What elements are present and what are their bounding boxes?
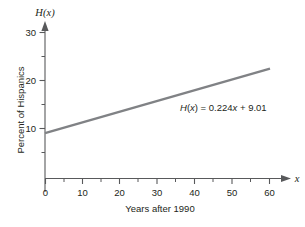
x-tick-label-50: 50: [227, 187, 238, 198]
equation-equals-slope: = 0.224: [198, 102, 233, 113]
x-axis-title: Years after 1990: [125, 203, 194, 214]
x-tick-label-20: 20: [114, 187, 125, 198]
y-tick-label-10: 10: [25, 123, 36, 134]
x-axis-variable-label: x: [294, 173, 300, 184]
chart-figure: 30 20 10 H(x) Percent of Hispanics: [0, 0, 305, 227]
x-tick-label-60: 60: [264, 187, 275, 198]
y-tick-label-30: 30: [25, 27, 36, 38]
x-tick-label-30: 30: [152, 187, 163, 198]
y-tick-label-20: 20: [25, 75, 36, 86]
x-tick-label-40: 40: [189, 187, 200, 198]
x-tick-label-10: 10: [77, 187, 88, 198]
x-tick-label-0: 0: [43, 187, 48, 198]
equation-intercept: + 9.01: [237, 102, 266, 113]
line-chart: 30 20 10 H(x) Percent of Hispanics: [0, 0, 305, 227]
y-axis-variable-paren-close: ): [50, 7, 55, 19]
regression-equation-label: H(x) = 0.224x + 9.01: [180, 102, 267, 113]
y-axis-title: Percent of Hispanics: [15, 66, 26, 153]
y-axis-variable-label: H(x): [34, 7, 55, 19]
